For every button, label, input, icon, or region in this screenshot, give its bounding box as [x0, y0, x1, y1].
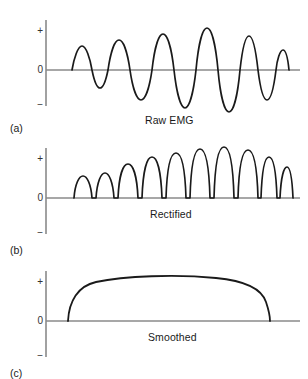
- axis-label-zero: 0: [29, 316, 43, 326]
- panel-raw-emg: + 0 − Raw EMG (a): [0, 0, 308, 135]
- panel-rectified: + 0 − Rectified (b): [0, 132, 308, 257]
- smoothed-plot: [0, 257, 308, 375]
- axis-label-negative: −: [29, 228, 43, 238]
- rectified-plot: [0, 132, 308, 257]
- axis-label-negative: −: [29, 351, 43, 361]
- smoothed-trace: [68, 276, 270, 321]
- axis-label-positive: +: [29, 26, 43, 36]
- axis-label-zero: 0: [29, 65, 43, 75]
- axis-label-negative: −: [29, 100, 43, 110]
- axis-label-zero: 0: [29, 193, 43, 203]
- panel-tag-b: (b): [10, 244, 23, 256]
- axis-label-positive: +: [29, 154, 43, 164]
- panel-caption-rectified: Rectified: [150, 208, 192, 220]
- axis-label-positive: +: [29, 277, 43, 287]
- panel-tag-c: (c): [10, 367, 22, 379]
- panel-caption-smoothed: Smoothed: [148, 331, 197, 343]
- rectified-trace: [74, 147, 293, 198]
- panel-smoothed: + 0 − Smoothed (c): [0, 257, 308, 375]
- panel-caption-raw-emg: Raw EMG: [145, 114, 194, 126]
